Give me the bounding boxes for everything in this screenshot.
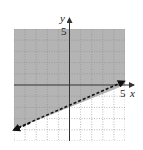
inequality-graph: y 5 5 x xyxy=(0,0,143,150)
y-axis-label: y xyxy=(59,12,65,24)
x-tick-label: 5 xyxy=(120,87,126,99)
x-axis-label: x xyxy=(129,87,135,99)
y-tick-label: 5 xyxy=(61,25,67,37)
